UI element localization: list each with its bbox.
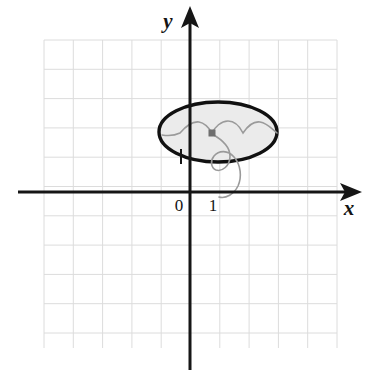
tick-label-origin: 0: [175, 196, 184, 215]
math-figure-coordinate-plane: y x 0 1: [0, 0, 374, 382]
figure-canvas: y x 0 1: [0, 0, 374, 382]
y-axis-label: y: [160, 9, 173, 33]
tick-label-one: 1: [209, 196, 218, 215]
x-axis-label: x: [343, 196, 355, 220]
ellipse-center-point: [209, 130, 216, 137]
y-axis: [181, 6, 199, 370]
